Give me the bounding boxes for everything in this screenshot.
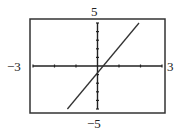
graph-plot	[0, 0, 185, 134]
axes	[33, 23, 162, 109]
